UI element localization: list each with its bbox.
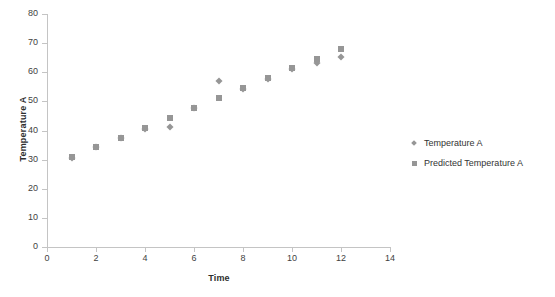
legend-label: Predicted Temperature A	[424, 158, 523, 168]
x-tick-mark	[341, 248, 342, 252]
x-tick-label: 8	[231, 254, 255, 263]
x-tick-label: 0	[35, 254, 59, 263]
x-tick-label: 12	[329, 254, 353, 263]
scatter-chart: 01020304050607080 02468101214 Time Tempe…	[0, 0, 555, 297]
legend-item-predicted-temperature-a[interactable]: Predicted Temperature A	[409, 153, 554, 173]
square-marker-icon	[409, 158, 419, 168]
x-axis-line	[47, 247, 391, 248]
x-tick-mark	[145, 248, 146, 252]
x-tick-mark	[194, 248, 195, 252]
y-axis-title: Temperature A	[18, 59, 28, 199]
x-tick-mark	[390, 248, 391, 252]
x-tick-mark	[96, 248, 97, 252]
x-tick-mark	[47, 248, 48, 252]
legend-label: Temperature A	[424, 138, 483, 148]
chart-legend: Temperature A Predicted Temperature A	[409, 133, 554, 173]
x-tick-mark	[243, 248, 244, 252]
y-tick-label: 0	[12, 242, 38, 251]
x-tick-label: 14	[378, 254, 402, 263]
x-tick-label: 4	[133, 254, 157, 263]
x-tick-label: 6	[182, 254, 206, 263]
x-tick-mark	[292, 248, 293, 252]
x-tick-label: 2	[84, 254, 108, 263]
diamond-marker-icon	[409, 138, 419, 148]
y-tick-label: 70	[12, 38, 38, 47]
legend-item-temperature-a[interactable]: Temperature A	[409, 133, 554, 153]
y-tick-label: 10	[12, 213, 38, 222]
y-tick-label: 80	[12, 9, 38, 18]
x-axis-title: Time	[47, 273, 391, 283]
plot-area	[47, 14, 390, 247]
x-tick-label: 10	[280, 254, 304, 263]
